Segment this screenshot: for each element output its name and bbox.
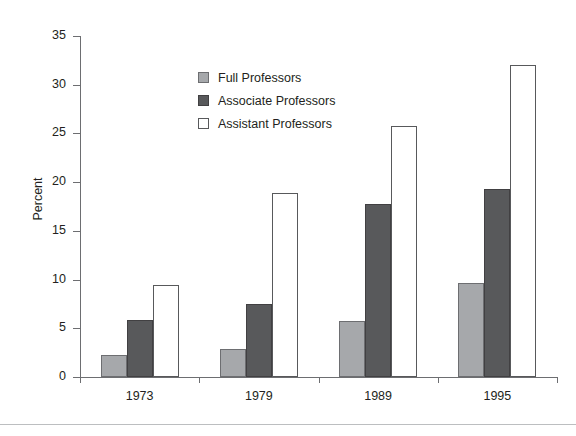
legend-swatch-icon xyxy=(198,118,209,129)
bar xyxy=(272,193,298,377)
chart-legend: Full ProfessorsAssociate ProfessorsAssis… xyxy=(198,66,335,135)
y-axis-tick xyxy=(73,231,80,232)
bar xyxy=(127,320,153,377)
legend-item: Full Professors xyxy=(198,66,335,89)
y-axis-tick xyxy=(73,377,80,378)
legend-swatch-icon xyxy=(198,95,209,106)
y-axis-tick-label: 35 xyxy=(26,28,66,42)
bar xyxy=(458,283,484,377)
x-axis-tick xyxy=(199,377,200,383)
y-axis-tick-label: 0 xyxy=(26,369,66,383)
x-axis-tick-label: 1995 xyxy=(457,389,537,403)
y-axis-tick xyxy=(73,133,80,134)
x-axis-tick-label: 1989 xyxy=(338,389,418,403)
figure-bottom-rule xyxy=(0,424,576,425)
x-axis-tick xyxy=(319,377,320,383)
bar-chart: Percent 05101520253035 1973197919891995 … xyxy=(0,0,576,436)
y-axis-tick-label: 5 xyxy=(26,320,66,334)
legend-item-label: Associate Professors xyxy=(218,94,335,108)
bar xyxy=(365,204,391,377)
legend-item: Assistant Professors xyxy=(198,112,335,135)
y-axis-tick xyxy=(73,36,80,37)
legend-swatch-icon xyxy=(198,72,209,83)
x-axis-tick xyxy=(80,377,81,383)
x-axis-tick-label: 1973 xyxy=(100,389,180,403)
x-axis-tick-label: 1979 xyxy=(219,389,299,403)
legend-item-label: Assistant Professors xyxy=(218,117,332,131)
y-axis-tick xyxy=(73,182,80,183)
legend-item: Associate Professors xyxy=(198,89,335,112)
x-axis-tick xyxy=(557,377,558,383)
bar xyxy=(339,321,365,378)
y-axis-tick-label: 30 xyxy=(26,77,66,91)
bar xyxy=(101,355,127,377)
y-axis-tick-label: 15 xyxy=(26,223,66,237)
bar xyxy=(220,349,246,377)
y-axis-tick-label: 25 xyxy=(26,125,66,139)
legend-item-label: Full Professors xyxy=(218,71,301,85)
y-axis-tick xyxy=(73,328,80,329)
y-axis-tick-label: 10 xyxy=(26,272,66,286)
bar xyxy=(484,189,510,377)
y-axis-tick xyxy=(73,85,80,86)
x-axis-tick xyxy=(438,377,439,383)
y-axis-tick xyxy=(73,280,80,281)
y-axis-tick-label: 20 xyxy=(26,174,66,188)
bar xyxy=(391,126,417,377)
bar xyxy=(153,285,179,377)
bar xyxy=(246,304,272,377)
bar xyxy=(510,65,536,377)
